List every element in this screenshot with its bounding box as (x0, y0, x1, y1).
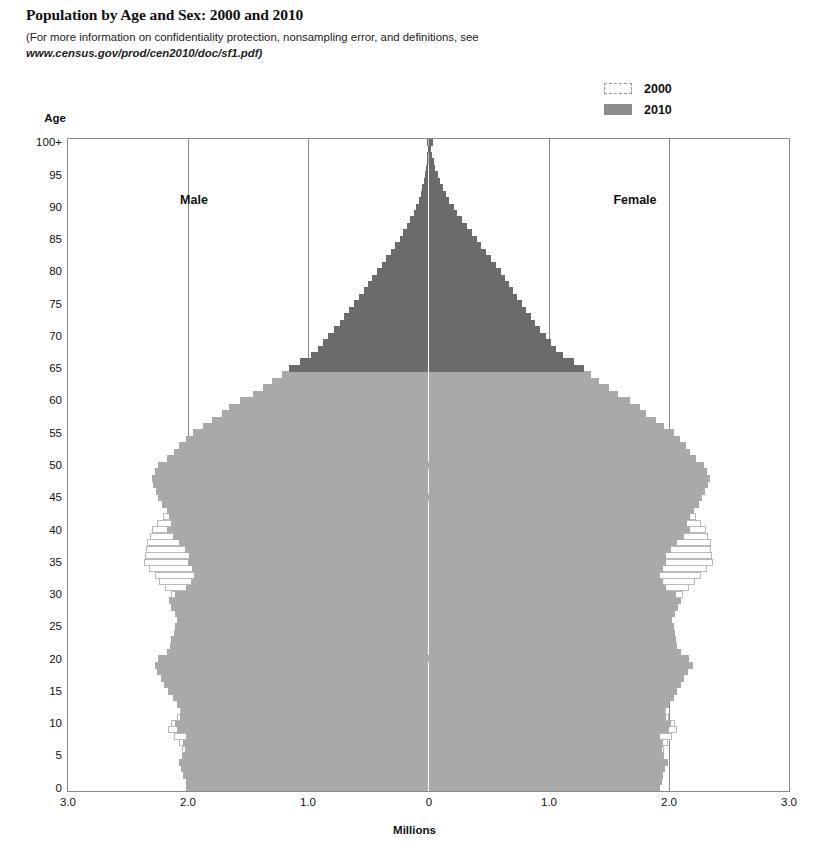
bar-2010-female (429, 649, 681, 656)
pyramid-row (68, 313, 789, 320)
pyramid-row (68, 346, 789, 353)
bar-2010-female (429, 591, 677, 598)
bar-2010-female (429, 520, 687, 527)
bar-2010-female (429, 404, 640, 411)
x-axis-title: Millions (0, 824, 829, 836)
pyramid-row (68, 139, 789, 146)
y-tick-5: 5 (4, 749, 62, 761)
pyramid-row (68, 358, 789, 365)
bar-2010-male (391, 249, 428, 256)
pyramid-row (68, 604, 789, 611)
pyramid-row (68, 326, 789, 333)
bar-2010-male (185, 546, 429, 553)
bar-2010-male (300, 358, 429, 365)
legend-label-2000: 2000 (644, 82, 672, 96)
bar-2010-female (429, 584, 667, 591)
pyramid-row (68, 475, 789, 482)
bar-2010-female (429, 371, 591, 378)
bar-2010-female (429, 184, 443, 191)
y-tick-60: 60 (4, 394, 62, 406)
pyramid-row (68, 739, 789, 746)
bar-2010-female (429, 714, 667, 721)
bar-2010-female (429, 294, 518, 301)
pyramid-row (68, 339, 789, 346)
pyramid-row (68, 275, 789, 282)
pyramid-row (68, 630, 789, 637)
pyramid-row (68, 307, 789, 314)
pyramid-row (68, 746, 789, 753)
bar-2010-female (429, 391, 619, 398)
bar-2010-male (168, 688, 429, 695)
bar-2010-male (171, 520, 428, 527)
y-tick-95: 95 (4, 169, 62, 181)
pyramid-row (68, 552, 789, 559)
bar-2010-female (429, 287, 513, 294)
y-tick-35: 35 (4, 556, 62, 568)
bar-2010-female (429, 552, 667, 559)
bar-2010-female (429, 765, 666, 772)
pyramid-row (68, 681, 789, 688)
pyramid-row (68, 565, 789, 572)
bar-2010-female (429, 746, 662, 753)
pyramid-row (68, 733, 789, 740)
bar-2010-female (429, 397, 631, 404)
y-tick-10: 10 (4, 717, 62, 729)
bar-2010-female (429, 410, 647, 417)
bar-2010-female (429, 165, 436, 172)
bar-2010-female (429, 442, 686, 449)
bar-2010-male (400, 236, 429, 243)
y-tick-80: 80 (4, 265, 62, 277)
bar-2010-female (429, 694, 674, 701)
bar-2010-male (175, 610, 429, 617)
x-tick-5: 2.0 (644, 796, 694, 808)
bar-2010-male (167, 507, 429, 514)
bar-2010-male (161, 675, 429, 682)
bar-2010-male (181, 765, 429, 772)
page-subtitle: (For more information on confidentiality… (26, 30, 666, 61)
bar-2010-female (429, 636, 677, 643)
bar-2010-male (158, 494, 428, 501)
bar-2010-female (429, 262, 496, 269)
bar-2010-female (429, 733, 661, 740)
bar-2010-female (429, 604, 679, 611)
pyramid-row (68, 410, 789, 417)
bar-2010-male (183, 739, 428, 746)
bar-2010-female (429, 462, 704, 469)
pyramid-row (68, 404, 789, 411)
pyramid-row (68, 617, 789, 624)
bar-2010-female (429, 429, 674, 436)
bar-2010-male (169, 597, 429, 604)
bar-2010-female (429, 688, 678, 695)
bar-2010-female (429, 281, 510, 288)
bar-2010-male (181, 707, 429, 714)
bar-2010-female (429, 681, 681, 688)
y-tick-75: 75 (4, 298, 62, 310)
pyramid-row (68, 191, 789, 198)
pyramid-row (68, 210, 789, 217)
bar-2010-female (429, 158, 434, 165)
legend-swatch-2010-icon (604, 104, 632, 115)
pyramid-row (68, 378, 789, 385)
y-axis-title: Age (32, 112, 78, 124)
bar-2010-female (429, 449, 691, 456)
bar-2010-male (368, 281, 428, 288)
bar-2010-male (334, 326, 429, 333)
legend-item-2010[interactable]: 2010 (604, 99, 672, 120)
quadrant-label-female: Female (613, 193, 656, 207)
bar-2010-female (429, 346, 556, 353)
bar-2010-male (167, 455, 429, 462)
bar-2010-female (429, 526, 691, 533)
bar-2010-male (414, 210, 428, 217)
bar-2010-male (419, 197, 429, 204)
bar-2010-female (429, 623, 674, 630)
x-tick-2: 1.0 (283, 796, 333, 808)
pyramid-row (68, 384, 789, 391)
bar-2010-female (429, 752, 665, 759)
bar-2010-female (429, 352, 564, 359)
bar-2010-male (395, 242, 429, 249)
bar-2010-female (429, 720, 672, 727)
bar-2010-male (263, 384, 429, 391)
legend-item-2000[interactable]: 2000 (604, 78, 672, 99)
pyramid-row (68, 333, 789, 340)
bar-2010-female (429, 417, 656, 424)
